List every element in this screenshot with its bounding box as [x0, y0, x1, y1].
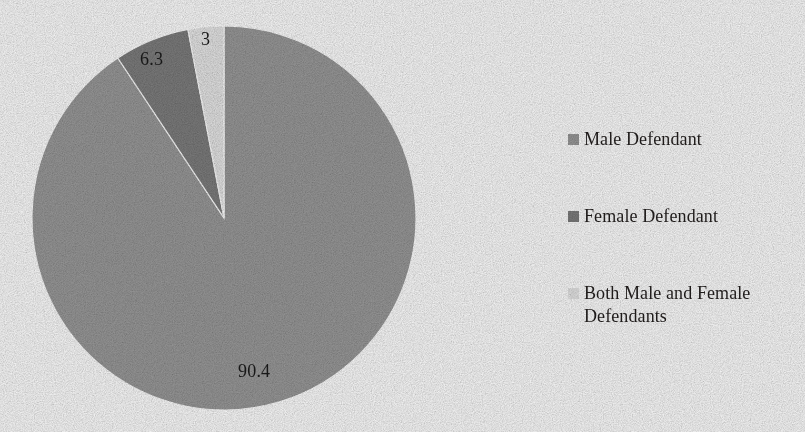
pie-svg: [32, 22, 416, 416]
pie-data-label-male-defendant: 90.4: [238, 362, 270, 380]
legend-item-female-defendant[interactable]: Female Defendant: [568, 205, 800, 228]
legend-label-both-male-and-female: Both Male and Female Defendants: [584, 282, 800, 328]
pie-data-label-female-defendant: 6.3: [140, 50, 163, 68]
legend-swatch-icon-both-male-and-female: [568, 288, 579, 299]
legend-item-male-defendant[interactable]: Male Defendant: [568, 128, 800, 151]
pie-plot-area: 3 6.3 90.4: [32, 22, 416, 416]
legend-item-both-male-and-female[interactable]: Both Male and Female Defendants: [568, 282, 800, 328]
pie-slices: [32, 26, 416, 410]
legend-label-female-defendant: Female Defendant: [584, 205, 718, 228]
legend-label-male-defendant: Male Defendant: [584, 128, 702, 151]
pie-chart-figure: 3 6.3 90.4 Male Defendant Female Defenda…: [0, 0, 805, 432]
pie-data-label-both-male-and-female: 3: [201, 30, 210, 48]
cropped-chart-title: [150, 0, 470, 4]
legend-swatch-icon-female-defendant: [568, 211, 579, 222]
chart-legend: Male Defendant Female Defendant Both Mal…: [568, 128, 800, 328]
legend-swatch-icon-male-defendant: [568, 134, 579, 145]
